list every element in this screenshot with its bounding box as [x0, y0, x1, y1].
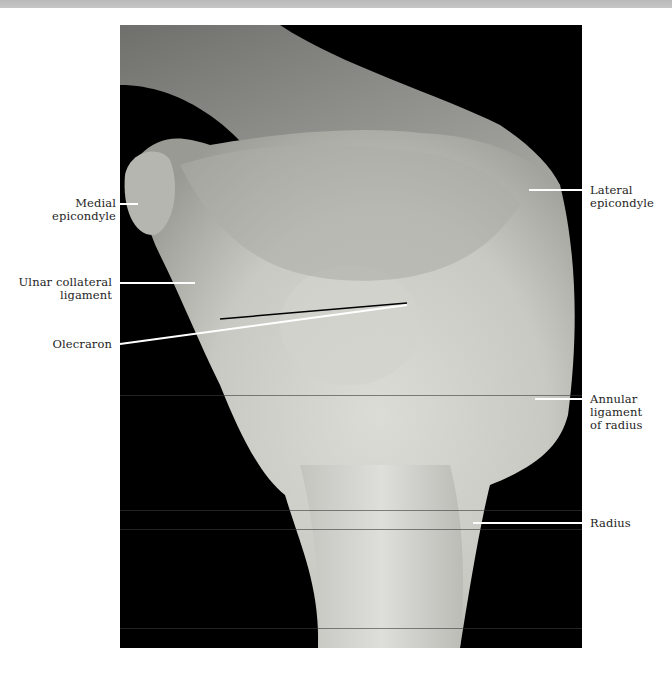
label-radius: Radius [590, 517, 670, 530]
label-text: of radius [590, 419, 670, 432]
label-olecranon: Olecraron [8, 338, 112, 351]
label-annular-ligament-of-radius: Annular ligament of radius [590, 393, 670, 432]
label-text: ligament [8, 289, 112, 302]
label-ulnar-collateral-ligament: Ulnar collateral ligament [8, 276, 112, 302]
label-medial-epicondyle: Medial epicondyle [8, 197, 116, 223]
label-text: Olecraron [53, 337, 112, 351]
bone-illustration [120, 25, 582, 648]
label-text: epicondyle [590, 197, 670, 210]
top-gray-bar [0, 0, 672, 8]
elbow-dissection-photo [120, 25, 582, 648]
label-lateral-epicondyle: Lateral epicondyle [590, 184, 670, 210]
label-text: Radius [590, 516, 631, 530]
label-text: Medial epicondyle [52, 196, 116, 223]
